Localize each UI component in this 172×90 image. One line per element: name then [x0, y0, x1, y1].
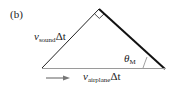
panel-label: (b)	[10, 8, 23, 20]
base-label: vairplaneΔt	[83, 70, 121, 84]
right-angle-marker	[95, 14, 105, 19]
angle-label: θM	[124, 52, 136, 66]
left-side-label: vsoundΔt	[34, 30, 66, 44]
direction-arrow-icon	[46, 76, 70, 81]
angle-arc	[143, 57, 147, 68]
